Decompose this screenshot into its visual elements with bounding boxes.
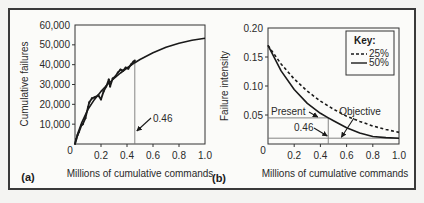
x-tick-label: 1.0: [198, 150, 212, 161]
annotation-present-arrow: [309, 112, 318, 117]
y-tick-label: 40,000: [39, 59, 70, 70]
y-tick-label: 0.10: [244, 81, 264, 92]
y-tick-label: 0.15: [244, 52, 264, 63]
data-point: [114, 75, 116, 77]
data-point: [122, 70, 124, 72]
y-tick-label: 0.20: [244, 23, 264, 34]
data-point: [125, 67, 127, 69]
series-line-observed-data: [75, 61, 135, 144]
y-tick-label: 20,000: [39, 99, 70, 110]
x-tick-label: 1.0: [392, 150, 406, 161]
x-tick-label: 0.8: [172, 150, 186, 161]
panel-label: (b): [212, 172, 226, 184]
origin-label: 0: [260, 145, 266, 156]
data-point: [112, 77, 114, 79]
data-point: [134, 60, 136, 62]
x-axis-title: Millions of cumulative commands: [67, 168, 214, 179]
annotation-objective: Objective: [339, 106, 381, 117]
x-axis-title: Millions of cumulative commands: [262, 168, 409, 179]
annotation-0-46: 0.46: [294, 122, 314, 133]
data-point: [127, 68, 129, 70]
legend-title: Key:: [354, 35, 376, 46]
legend-label: 50%: [369, 57, 389, 68]
data-point: [82, 123, 84, 125]
data-point: [88, 101, 90, 103]
data-point: [87, 106, 89, 108]
legend: Key:25%50%: [346, 31, 394, 75]
annotation-present: Present: [271, 106, 306, 117]
panel-label: (a): [21, 171, 35, 183]
data-point: [97, 94, 99, 96]
data-point: [130, 64, 132, 66]
data-point: [103, 90, 105, 92]
annotation-objective-arrow: [341, 118, 354, 137]
x-tick-label: 0.6: [340, 150, 354, 161]
y-tick-label: 10,000: [39, 119, 70, 130]
data-point: [91, 97, 93, 99]
x-tick-label: 0.2: [287, 150, 301, 161]
data-point: [117, 72, 119, 74]
data-point: [74, 143, 76, 145]
y-axis-title: Cumulative failures: [19, 41, 30, 126]
annotation-label: 0.46: [153, 113, 173, 124]
data-point: [77, 134, 79, 136]
figure-svg: 10,00020,00030,00040,00050,00060,0000.20…: [0, 0, 424, 203]
data-point: [109, 85, 111, 87]
origin-label: 0: [67, 145, 73, 156]
x-tick-label: 0.2: [94, 150, 108, 161]
x-tick-label: 0.4: [313, 150, 327, 161]
panel-b: 0.050.100.150.200.20.40.60.81.00Millions…: [212, 23, 408, 185]
plot-area: [75, 25, 205, 144]
data-point: [84, 117, 86, 119]
y-tick-label: 60,000: [39, 20, 70, 31]
annotation-arrow: [137, 118, 151, 131]
y-axis-title: Failure intensity: [219, 51, 230, 121]
data-point: [75, 138, 77, 140]
x-tick-label: 0.4: [120, 150, 134, 161]
data-point: [105, 85, 107, 87]
data-point: [78, 131, 80, 133]
x-tick-label: 0.6: [146, 150, 160, 161]
y-tick-label: 0.05: [244, 110, 264, 121]
data-point: [119, 69, 121, 71]
y-tick-label: 50,000: [39, 39, 70, 50]
annotation-0-46-arrow: [314, 128, 327, 136]
data-point: [100, 98, 102, 100]
x-tick-label: 0.8: [366, 150, 380, 161]
panel-a: 10,00020,00030,00040,00050,00060,0000.20…: [19, 20, 213, 184]
y-tick-label: 30,000: [39, 79, 70, 90]
data-point: [93, 96, 95, 98]
data-point: [108, 78, 110, 80]
